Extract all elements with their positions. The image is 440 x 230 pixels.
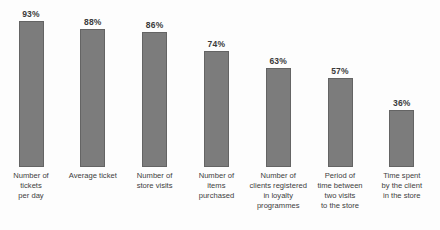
bar-category-line: tickets [0,181,64,191]
bar-category-line: in the store [369,191,435,201]
bar-value-label: 86% [122,20,188,30]
bar-category-label: Period oftime betweentwo visitsto the st… [307,171,373,211]
bar-column: 57%Period oftime betweentwo visitsto the… [307,0,373,230]
bar [80,29,105,167]
bar-column: 36%Time spentby the clientin the store [369,0,435,230]
bar-value-label: 93% [0,9,64,19]
bar-category-line: Number of [183,171,249,181]
bar-category-line: in loyalty [245,191,311,201]
bar-column: 88%Average ticket [60,0,126,230]
bar-category-line: two visits [307,191,373,201]
bar-category-line: Number of [122,171,188,181]
bar-category-line: time between [307,181,373,191]
bar [204,51,229,167]
bar-column: 74%Number ofitemspurchased [183,0,249,230]
bar-column: 86%Number ofstore visits [122,0,188,230]
bar-category-line: Number of [245,171,311,181]
bar-value-label: 36% [369,98,435,108]
bar-category-label: Time spentby the clientin the store [369,171,435,201]
bar-column: 93%Number ofticketsper day [0,0,64,230]
bar [389,110,414,167]
bar-category-label: Number ofticketsper day [0,171,64,201]
bar-chart-screenshot: 93%Number ofticketsper day88%Average tic… [0,0,440,230]
bar-value-label: 57% [307,66,373,76]
bar-value-label: 88% [60,17,126,27]
bar-category-line: items [183,181,249,191]
bar-chart: 93%Number ofticketsper day88%Average tic… [0,0,440,230]
bar [142,32,167,167]
bar [19,21,44,167]
bar-category-line: Number of [0,171,64,181]
bar-category-line: to the store [307,201,373,211]
bar-category-line: by the client [369,181,435,191]
bar-category-line: store visits [122,181,188,191]
bar-category-label: Number ofclients registeredin loyaltypro… [245,171,311,211]
bar-category-line: Time spent [369,171,435,181]
bar-category-label: Average ticket [60,171,126,181]
bar-value-label: 63% [245,56,311,66]
bar [266,68,291,167]
bar-value-label: 74% [183,39,249,49]
bar-category-line: Average ticket [60,171,126,181]
bar-category-label: Number ofstore visits [122,171,188,191]
bar-category-line: clients registered [245,181,311,191]
bar-column: 63%Number ofclients registeredin loyalty… [245,0,311,230]
bar-category-line: purchased [183,191,249,201]
bar [328,78,353,167]
bar-category-line: per day [0,191,64,201]
bar-category-line: programmes [245,201,311,211]
bar-category-line: Period of [307,171,373,181]
bar-category-label: Number ofitemspurchased [183,171,249,201]
